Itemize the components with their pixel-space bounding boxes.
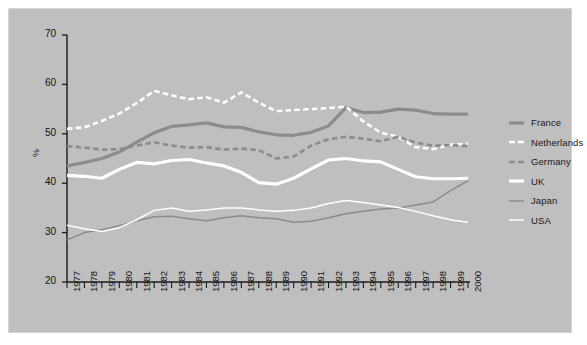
x-tick-label: 1989	[280, 271, 291, 292]
x-tick-label: 1985	[210, 271, 221, 292]
series-line-usa	[67, 200, 468, 231]
series-line-uk	[67, 159, 468, 185]
series-line-netherlands	[67, 91, 468, 149]
x-tick-label: 1986	[228, 271, 239, 292]
x-tick-label: 2000	[472, 271, 483, 292]
legend-swatch-uk	[509, 176, 524, 186]
x-tick-label: 1987	[245, 271, 256, 292]
legend-label-uk: UK	[531, 176, 544, 187]
x-tick-label: 1980	[123, 271, 134, 292]
x-tick-label: 1981	[141, 271, 152, 292]
legend-item-france[interactable]: France	[509, 113, 587, 133]
x-tick-label: 1984	[193, 271, 204, 292]
y-tick-label: 70	[34, 28, 56, 39]
plot-area: % France Netherlands Germany UK Japan	[8, 8, 572, 333]
legend-label-usa: USA	[531, 215, 551, 226]
x-tick-label: 1995	[385, 271, 396, 292]
x-tick-label: 1993	[350, 271, 361, 292]
legend-label-japan: Japan	[531, 195, 557, 206]
chart-legend: France Netherlands Germany UK Japan USA	[509, 113, 587, 230]
series-line-france	[67, 108, 468, 166]
legend-item-usa[interactable]: USA	[509, 211, 587, 231]
legend-label-germany: Germany	[531, 156, 571, 167]
y-tick-label: 50	[34, 127, 56, 138]
legend-swatch-france	[509, 118, 524, 128]
x-tick-label: 1982	[158, 271, 169, 292]
x-tick-label: 1997	[420, 271, 431, 292]
legend-item-netherlands[interactable]: Netherlands	[509, 133, 587, 153]
legend-label-france: France	[531, 117, 561, 128]
legend-swatch-usa	[509, 215, 524, 225]
x-tick-label: 1979	[106, 271, 117, 292]
x-tick-label: 1999	[455, 271, 466, 292]
x-tick-label: 1983	[176, 271, 187, 292]
y-tick-label: 20	[34, 275, 56, 286]
legend-item-uk[interactable]: UK	[509, 172, 587, 192]
legend-swatch-germany	[509, 157, 524, 167]
y-tick-label: 60	[34, 77, 56, 88]
x-tick-label: 1996	[402, 271, 413, 292]
legend-item-japan[interactable]: Japan	[509, 191, 587, 211]
legend-label-netherlands: Netherlands	[531, 137, 583, 148]
legend-swatch-japan	[509, 196, 524, 206]
y-tick-label: 40	[34, 176, 56, 187]
legend-swatch-netherlands	[509, 137, 524, 147]
x-tick-label: 1998	[437, 271, 448, 292]
x-tick-label: 1991	[315, 271, 326, 292]
legend-item-germany[interactable]: Germany	[509, 152, 587, 172]
chart-figure: % France Netherlands Germany UK Japan	[0, 0, 587, 345]
x-tick-label: 1992	[333, 271, 344, 292]
x-tick-label: 1994	[367, 271, 378, 292]
x-tick-label: 1977	[71, 271, 82, 292]
x-tick-label: 1988	[263, 271, 274, 292]
y-tick-label: 30	[34, 226, 56, 237]
x-tick-label: 1990	[298, 271, 309, 292]
x-tick-label: 1978	[88, 271, 99, 292]
